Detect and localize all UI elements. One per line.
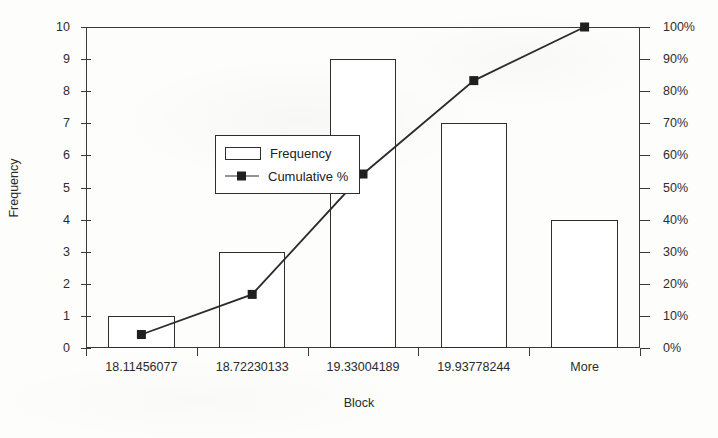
x-axis-tick-label: More [570, 360, 598, 374]
y-axis-right: 100%90%80%70%60%50%40%30%20%10%0% [648, 27, 718, 348]
y-axis-tick-label: 1 [63, 309, 70, 323]
y-axis-tick-label: 8 [63, 84, 70, 98]
cumulative-swatch-icon [225, 171, 259, 182]
y2-axis-tick-mark [640, 316, 650, 317]
cumulative-marker [248, 290, 257, 299]
y2-axis-tick-mark [640, 252, 650, 253]
cumulative-line-series [86, 27, 640, 348]
x-axis-tick-label: 18.11456077 [105, 360, 177, 374]
y2-axis-tick-mark [640, 284, 650, 285]
y2-axis-tick-label: 20% [663, 277, 688, 291]
y2-axis-tick-label: 90% [663, 52, 688, 66]
cumulative-marker [137, 330, 146, 339]
y2-axis-tick-label: 40% [663, 213, 688, 227]
y-axis-tick-label: 10 [56, 20, 70, 34]
x-axis-tick-mark [640, 348, 641, 356]
y2-axis-tick-label: 100% [663, 20, 695, 34]
y2-axis-tick-label: 30% [663, 245, 688, 259]
y-axis-title: Frequency [7, 158, 21, 217]
x-axis-tick-mark [197, 348, 198, 356]
legend-label-frequency: Frequency [270, 147, 331, 160]
x-axis-tick-label: 19.93778244 [437, 360, 510, 374]
x-axis-ticks [86, 348, 640, 357]
y2-axis-tick-mark [640, 220, 650, 221]
y2-axis-tick-mark [640, 59, 650, 60]
y2-axis-tick-label: 0% [663, 341, 681, 355]
frequency-swatch-icon [225, 147, 261, 160]
histogram-chart: 109876543210 100%90%80%70%60%50%40%30%20… [0, 0, 718, 438]
legend: Frequency Cumulative % [215, 135, 360, 194]
x-axis-tick-mark [308, 348, 309, 356]
x-axis-tick-labels: 18.1145607718.7223013319.3300418919.9377… [86, 360, 640, 382]
cumulative-marker [469, 76, 478, 85]
y2-axis-tick-mark [640, 155, 650, 156]
legend-item-frequency: Frequency [225, 143, 348, 163]
y2-axis-tick-label: 10% [663, 309, 688, 323]
x-axis-tick-mark [529, 348, 530, 356]
x-axis-tick-label: 18.72230133 [216, 360, 289, 374]
y-axis-tick-label: 2 [63, 277, 70, 291]
legend-item-cumulative: Cumulative % [225, 166, 348, 186]
legend-label-cumulative: Cumulative % [268, 170, 348, 183]
y-axis-tick-label: 6 [63, 148, 70, 162]
y-axis-tick-label: 9 [63, 52, 70, 66]
y2-axis-tick-mark [640, 27, 650, 28]
y2-axis-tick-label: 80% [663, 84, 688, 98]
cumulative-marker [580, 23, 589, 32]
x-axis-tick-label: 19.33004189 [327, 360, 400, 374]
y2-axis-tick-mark [640, 91, 650, 92]
plot-area: Frequency Cumulative % [86, 27, 640, 348]
y2-axis-tick-mark [640, 348, 650, 349]
x-axis-title: Block [0, 396, 718, 410]
y-axis-tick-label: 4 [63, 213, 70, 227]
y2-axis-tick-label: 70% [663, 116, 688, 130]
y-axis-tick-label: 5 [63, 181, 70, 195]
x-axis-tick-mark [418, 348, 419, 356]
y2-axis-tick-label: 50% [663, 181, 688, 195]
x-axis-tick-mark [86, 348, 87, 356]
y-axis-tick-label: 7 [63, 116, 70, 130]
y2-axis-tick-mark [640, 123, 650, 124]
cumulative-line [141, 27, 584, 335]
y2-axis-tick-mark [640, 188, 650, 189]
y-axis-tick-label: 0 [63, 341, 70, 355]
y2-axis-tick-label: 60% [663, 148, 688, 162]
y-axis-tick-label: 3 [63, 245, 70, 259]
